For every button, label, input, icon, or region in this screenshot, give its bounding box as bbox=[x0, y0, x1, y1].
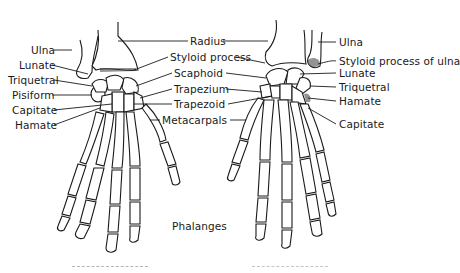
label-phalanges: Phalanges bbox=[172, 220, 227, 232]
label-right-styloid-process-of-ulna: Styloid process of ulna bbox=[339, 55, 460, 67]
label-left-ulna: Ulna bbox=[31, 44, 55, 56]
right-phalanx-5-distal bbox=[326, 202, 336, 216]
label-left-capitate: Capitate bbox=[12, 104, 57, 116]
left-phalanx-3-proximal bbox=[110, 170, 122, 204]
left-phalanx-4-middle bbox=[80, 200, 96, 224]
left-phalanx-3-distal bbox=[106, 234, 118, 252]
label-right-capitate: Capitate bbox=[339, 118, 384, 130]
left-radius-bone bbox=[92, 22, 138, 70]
label-trapezoid: Trapezoid bbox=[174, 98, 225, 110]
label-scaphoid: Scaphoid bbox=[174, 67, 223, 79]
left-phalanx-1-proximal bbox=[160, 142, 176, 166]
left-lunate-bone bbox=[106, 75, 124, 90]
label-trapezium: Trapezium bbox=[174, 83, 229, 95]
label-right-lunate: Lunate bbox=[339, 67, 376, 79]
label-right-hamate: Hamate bbox=[339, 95, 381, 107]
label-left-pisiform: Pisiform bbox=[12, 89, 55, 101]
right-phalanx-4-proximal bbox=[300, 158, 316, 194]
left-metacarpal-3 bbox=[112, 112, 124, 168]
right-phalanx-3-distal bbox=[282, 230, 292, 248]
right-phalanx-2-distal bbox=[256, 224, 266, 240]
right-metacarpal-3 bbox=[278, 100, 292, 162]
left-trapezoid-bone bbox=[124, 94, 134, 112]
left-phalanx-4-distal bbox=[75, 224, 90, 239]
left-phalanx-3-middle bbox=[108, 206, 120, 232]
label-left-hamate: Hamate bbox=[15, 119, 57, 131]
left-phalanx-5-middle bbox=[62, 196, 76, 216]
right-capitate-bone bbox=[280, 84, 292, 100]
left-phalanx-2-proximal bbox=[130, 168, 140, 200]
right-phalanx-5-middle bbox=[322, 182, 334, 202]
left-hamate-bone bbox=[100, 94, 112, 112]
label-left-lunate: Lunate bbox=[19, 59, 56, 71]
right-phalanx-4-distal bbox=[310, 220, 322, 236]
label-styloid-process: Styloid process bbox=[170, 51, 251, 63]
right-radius-bone bbox=[265, 20, 306, 66]
left-phalanx-1-distal bbox=[168, 166, 180, 185]
left-phalanx-2-middle bbox=[130, 202, 140, 224]
right-metacarpal-2 bbox=[260, 100, 274, 160]
left-phalanx-5-proximal bbox=[68, 164, 86, 196]
left-metacarpal-2 bbox=[126, 112, 140, 166]
right-metacarpal-1 bbox=[240, 98, 264, 140]
left-hand-drawing bbox=[57, 22, 180, 252]
right-phalanx-2-proximal bbox=[258, 162, 270, 196]
left-phalanx-4-proximal bbox=[86, 168, 104, 200]
caption-left-truncated bbox=[72, 266, 148, 273]
label-radius: Radius bbox=[190, 35, 226, 47]
right-phalanx-1-distal bbox=[227, 164, 240, 181]
right-scaphoid-bone bbox=[266, 69, 288, 86]
caption-right-truncated bbox=[252, 266, 328, 273]
right-phalanx-3-proximal bbox=[282, 164, 292, 200]
right-phalanx-5-proximal bbox=[316, 152, 330, 182]
right-phalanx-4-middle bbox=[306, 194, 320, 220]
label-right-triquetral: Triquetral bbox=[339, 81, 390, 93]
right-phalanx-3-middle bbox=[282, 202, 292, 228]
label-left-triquetral: Triquetral bbox=[8, 74, 59, 86]
left-capitate-bone bbox=[112, 92, 124, 112]
label-right-ulna: Ulna bbox=[339, 36, 363, 48]
left-phalanx-2-distal bbox=[130, 226, 140, 242]
label-metacarpals: Metacarpals bbox=[162, 114, 227, 126]
right-phalanx-1-proximal bbox=[232, 140, 248, 164]
left-phalanx-5-distal bbox=[57, 216, 70, 231]
right-phalanx-2-middle bbox=[256, 198, 268, 222]
